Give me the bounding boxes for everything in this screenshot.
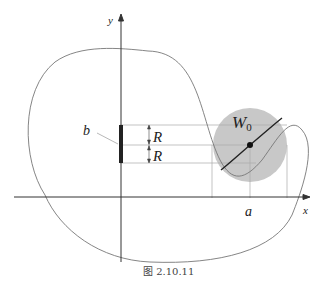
- radius-label-upper: R: [152, 129, 162, 145]
- figure-caption: 图 2.10.11: [143, 266, 194, 277]
- radius-dimension: [148, 125, 151, 163]
- segment-b-leader: [97, 133, 118, 144]
- radius-label-lower: R: [152, 148, 162, 164]
- point-a: [247, 142, 253, 148]
- point-a-label: a: [245, 204, 252, 219]
- y-axis-label: y: [107, 14, 113, 26]
- segment-b-label: b: [83, 123, 90, 138]
- figure-canvas: y x b R R W0 a 图 2.10.11: [0, 0, 319, 283]
- x-axis-label: x: [302, 204, 308, 216]
